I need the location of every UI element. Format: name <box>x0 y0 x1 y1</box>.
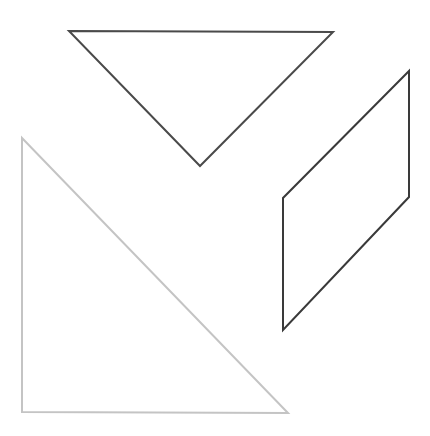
shapes-figure <box>0 0 430 436</box>
drawing-canvas <box>0 0 430 436</box>
canvas-background <box>0 0 430 436</box>
